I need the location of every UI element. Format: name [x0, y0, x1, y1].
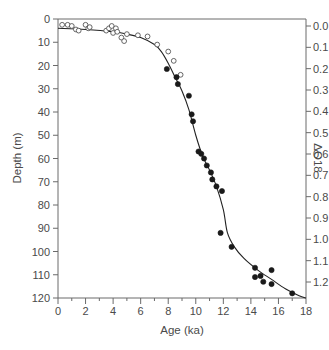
filled-data-point — [214, 184, 219, 189]
y-tick-label: 80 — [38, 199, 50, 211]
filled-data-point — [164, 66, 169, 71]
y2-tick-label: 0.2 — [313, 63, 328, 75]
y2-tick-label: 0.4 — [313, 105, 328, 117]
y2-tick-label: 0.5 — [313, 127, 328, 139]
filled-data-point — [252, 265, 257, 270]
filled-data-point — [186, 93, 191, 98]
filled-data-point — [190, 119, 195, 124]
y2-tick-label: 0.8 — [313, 191, 328, 203]
filled-data-point — [261, 279, 266, 284]
open-data-point — [122, 39, 127, 44]
filled-data-point — [269, 281, 274, 286]
y-tick-label: 100 — [32, 246, 50, 258]
x-tick-label: 0 — [55, 305, 61, 317]
filled-data-point — [210, 177, 215, 182]
y-tick-label: 120 — [32, 292, 50, 304]
open-data-point — [124, 32, 129, 37]
filled-data-point — [204, 163, 209, 168]
age-depth-chart: 0102030405060708090100110120024681012141… — [0, 0, 329, 350]
filled-data-point — [218, 230, 223, 235]
y-tick-label: 70 — [38, 176, 50, 188]
filled-data-point — [174, 75, 179, 80]
filled-data-point — [258, 273, 263, 278]
y-tick-label: 110 — [32, 269, 50, 281]
open-data-point — [115, 29, 120, 34]
x-axis-title: Age (ka) — [160, 324, 204, 336]
filled-data-point — [175, 82, 180, 87]
filled-data-point — [252, 274, 257, 279]
x-tick-label: 8 — [165, 305, 171, 317]
y2-tick-label: 0.1 — [313, 41, 328, 53]
open-data-point — [171, 58, 176, 63]
filled-data-point — [219, 188, 224, 193]
open-data-point — [87, 25, 92, 30]
filled-data-point — [290, 291, 295, 296]
fitted-curve-line — [58, 28, 306, 298]
filled-data-point — [189, 112, 194, 117]
x-tick-label: 6 — [138, 305, 144, 317]
y-tick-label: 50 — [38, 129, 50, 141]
filled-data-point — [201, 156, 206, 161]
fitted-curve — [58, 28, 306, 298]
y-tick-label: 0 — [44, 13, 50, 25]
y2-tick-label: 0.0 — [313, 20, 328, 32]
open-data-point — [69, 24, 74, 29]
y-tick-label: 20 — [38, 60, 50, 72]
x-tick-label: 14 — [245, 305, 257, 317]
x-tick-label: 12 — [217, 305, 229, 317]
filled-data-point — [229, 244, 234, 249]
filled-data-point — [208, 170, 213, 175]
y2-tick-label: 1.1 — [313, 255, 328, 267]
x-tick-label: 4 — [110, 305, 116, 317]
y-tick-label: 30 — [38, 83, 50, 95]
x-tick-label: 16 — [272, 305, 284, 317]
y-tick-label: 10 — [38, 36, 50, 48]
y2-axis-title: ΔO18 — [312, 143, 324, 172]
open-data-point — [136, 33, 141, 38]
filled-data-point — [199, 151, 204, 156]
y-axis-title: Depth (m) — [11, 132, 23, 183]
open-data-point — [166, 49, 171, 54]
x-tick-label: 10 — [190, 305, 202, 317]
y-tick-label: 40 — [38, 106, 50, 118]
filled-data-point — [269, 268, 274, 273]
x-tick-label: 2 — [82, 305, 88, 317]
data-points — [60, 22, 295, 296]
open-data-point — [76, 28, 81, 33]
y-tick-label: 90 — [38, 222, 50, 234]
y2-tick-label: 0.3 — [313, 84, 328, 96]
y2-tick-label: 1.2 — [313, 276, 328, 288]
open-data-point — [145, 34, 150, 39]
y2-tick-label: 1.0 — [313, 233, 328, 245]
open-data-point — [155, 42, 160, 47]
open-data-point — [60, 22, 65, 27]
y-tick-label: 60 — [38, 153, 50, 165]
x-tick-label: 18 — [300, 305, 312, 317]
y2-tick-label: 0.9 — [313, 212, 328, 224]
axes: 0102030405060708090100110120024681012141… — [32, 13, 329, 317]
